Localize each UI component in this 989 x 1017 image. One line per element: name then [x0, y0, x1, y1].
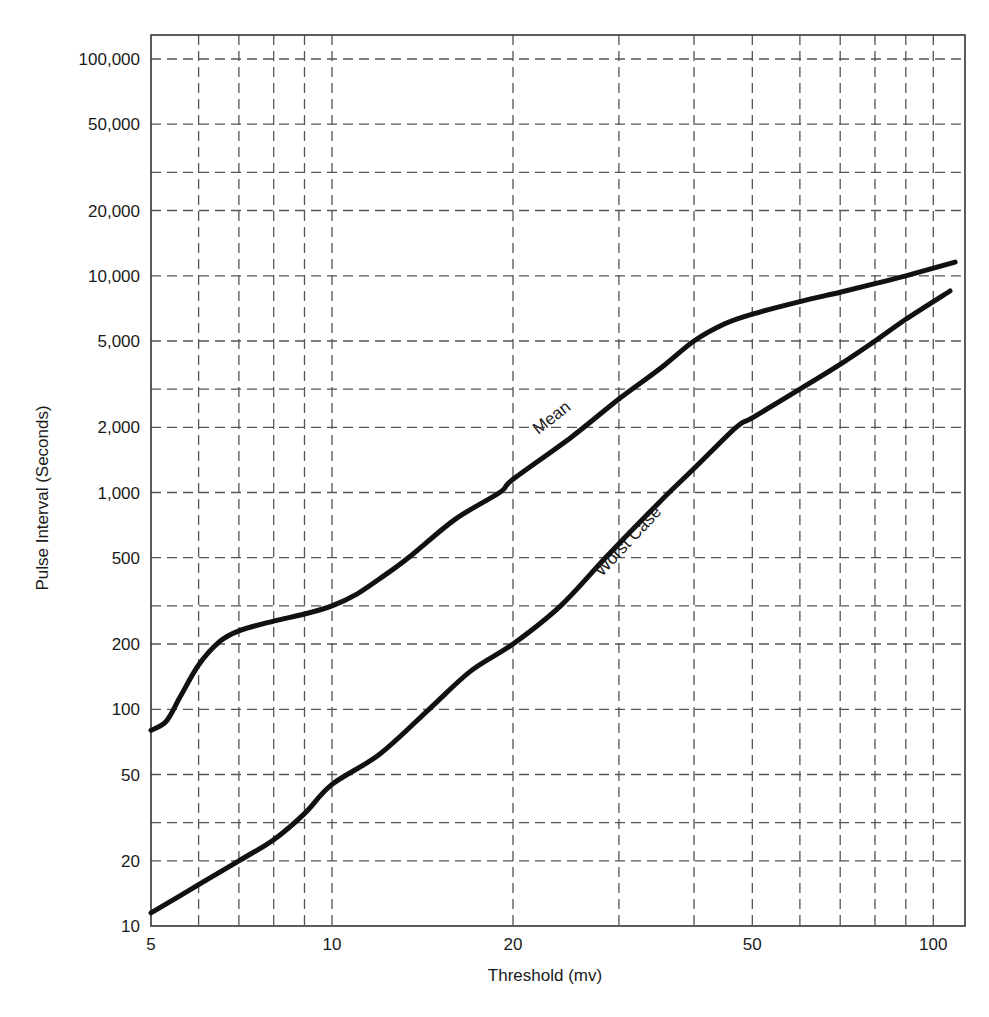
- data-curves: [151, 262, 955, 913]
- x-axis-title: Threshold (mv): [488, 966, 602, 985]
- grid-lines: [151, 35, 965, 926]
- curve-worst-case: [151, 291, 950, 913]
- y-axis-ticks: 1020501002005001,0002,0005,00010,00020,0…: [79, 50, 140, 936]
- y-tick-label: 100: [112, 700, 140, 719]
- x-tick-label: 100: [919, 935, 947, 954]
- y-tick-label: 100,000: [79, 50, 140, 69]
- y-tick-label: 10: [121, 917, 140, 936]
- x-tick-label: 5: [146, 935, 155, 954]
- y-tick-label: 2,000: [97, 418, 140, 437]
- pulse-interval-chart: 5102050100 1020501002005001,0002,0005,00…: [0, 0, 989, 1017]
- x-tick-label: 20: [504, 935, 523, 954]
- curve-label-mean: Mean: [529, 397, 574, 438]
- y-tick-label: 50,000: [88, 115, 140, 134]
- y-tick-label: 500: [112, 549, 140, 568]
- y-tick-label: 50: [121, 766, 140, 785]
- curve-mean: [151, 262, 955, 730]
- y-tick-label: 5,000: [97, 332, 140, 351]
- y-tick-label: 1,000: [97, 484, 140, 503]
- y-axis-title: Pulse Interval (Seconds): [33, 405, 52, 590]
- y-tick-label: 20: [121, 852, 140, 871]
- y-tick-label: 200: [112, 635, 140, 654]
- curve-labels: MeanWorst Case: [529, 397, 665, 580]
- y-tick-label: 20,000: [88, 202, 140, 221]
- x-axis-ticks: 5102050100: [146, 935, 947, 954]
- x-tick-label: 10: [323, 935, 342, 954]
- curve-label-worst-case: Worst Case: [591, 502, 665, 580]
- x-tick-label: 50: [743, 935, 762, 954]
- y-tick-label: 10,000: [88, 267, 140, 286]
